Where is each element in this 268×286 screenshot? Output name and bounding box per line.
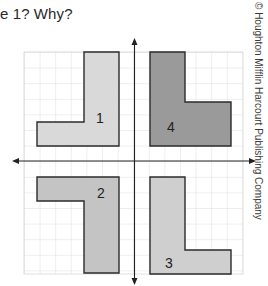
shape-3-label: 3 [165, 255, 173, 271]
shape-1-label: 1 [96, 110, 104, 126]
shape-4-label: 4 [167, 119, 175, 135]
grid [24, 52, 243, 274]
y-axis-up-arrow-icon [132, 38, 138, 45]
y-axis-down-arrow-icon [132, 278, 138, 285]
coordinate-grid-figure: 1 4 2 3 [0, 0, 268, 286]
shape-2-label: 2 [97, 185, 105, 201]
x-axis-left-arrow-icon [12, 158, 19, 164]
x-axis-right-arrow-icon [249, 158, 256, 164]
